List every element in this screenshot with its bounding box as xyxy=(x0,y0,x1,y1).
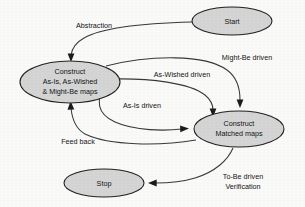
edge-to-be-driven-verification-arrowhead xyxy=(148,180,157,187)
diagram-canvas: Abstraction Might-Be driven As-Wished dr… xyxy=(0,0,305,207)
node-construct-matched-maps[interactable]: Construct Matched maps xyxy=(194,111,284,147)
node-construct-matched-maps-label-line2: Matched maps xyxy=(215,129,263,138)
edge-as-is-driven: As-Is driven xyxy=(99,88,189,132)
edge-might-be-driven-label: Might-Be driven xyxy=(222,53,272,62)
node-start-label: Start xyxy=(224,17,239,26)
node-start[interactable]: Start xyxy=(192,7,272,35)
node-construct-maps-label-line3: & Might-Be maps xyxy=(42,87,98,96)
edge-as-is-driven-arrowhead xyxy=(180,125,189,132)
edge-to-be-driven-verification-label-line1: To-Be driven xyxy=(223,172,263,181)
edge-abstraction-label: Abstraction xyxy=(76,21,112,30)
node-construct-maps[interactable]: Construct As-Is, As-Wished & Might-Be ma… xyxy=(20,61,120,103)
node-stop[interactable]: Stop xyxy=(64,169,144,197)
node-stop-label: Stop xyxy=(97,179,112,188)
node-construct-matched-maps-label-line1: Construct xyxy=(224,119,255,128)
edge-might-be-driven: Might-Be driven xyxy=(106,53,272,108)
node-construct-maps-label-line2: As-Is, As-Wished xyxy=(43,77,98,86)
edge-as-wished-driven: As-Wished driven xyxy=(111,70,216,117)
node-construct-maps-label-line1: Construct xyxy=(55,67,86,76)
edge-feed-back-label: Feed back xyxy=(61,137,95,146)
edge-abstraction: Abstraction xyxy=(68,21,192,62)
edge-might-be-driven-arrowhead xyxy=(237,100,244,109)
edge-to-be-driven-verification: To-Be driven Verification xyxy=(148,148,263,191)
edge-to-be-driven-verification-label-line2: Verification xyxy=(225,182,260,191)
edge-to-be-driven-verification-path xyxy=(155,148,233,183)
process-diagram: Abstraction Might-Be driven As-Wished dr… xyxy=(0,0,305,207)
edge-as-is-driven-label: As-Is driven xyxy=(123,101,161,110)
edge-as-wished-driven-label: As-Wished driven xyxy=(154,70,210,79)
